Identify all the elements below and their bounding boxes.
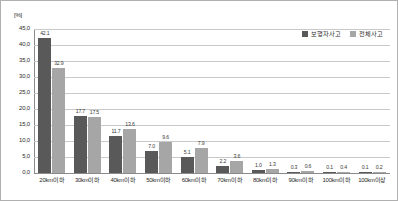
bar[interactable]: 11.7 [109, 136, 122, 173]
bar-slot: 2.2 [216, 29, 229, 173]
bar-value-label: 0.1 [326, 164, 333, 170]
bar[interactable]: 2.2 [216, 166, 229, 173]
bar[interactable]: 0.3 [287, 172, 300, 173]
bar-slot: 0.3 [287, 29, 300, 173]
legend-swatch-icon-series-1 [302, 31, 308, 37]
x-axis-tick-label: 20km이하 [34, 175, 70, 184]
bar-slot: 1.3 [266, 29, 279, 173]
gridline [34, 173, 390, 174]
bar[interactable]: 1.3 [266, 169, 279, 173]
y-axis-tick-label: 40,0 [4, 41, 30, 47]
bar-value-label: 7.0 [148, 143, 155, 149]
legend-item-series-2: 전체사고 [350, 29, 383, 38]
bar-slot: 32.9 [52, 29, 65, 173]
bar[interactable]: 7.0 [145, 151, 158, 173]
bar[interactable]: 42.1 [38, 38, 51, 173]
x-axis-tick-label: 30km이하 [70, 175, 106, 184]
bar[interactable]: 7.9 [195, 148, 208, 173]
bar-slot: 1.0 [252, 29, 265, 173]
bar-value-label: 1.0 [255, 162, 262, 168]
bar-value-label: 2.2 [219, 158, 226, 164]
bar-group: 0.10.4 [319, 29, 355, 173]
legend-label-series-2: 전체사고 [359, 29, 383, 38]
x-axis-tick-label: 60km이하 [176, 175, 212, 184]
y-axis-tick-label: 25,0 [4, 89, 30, 95]
bar-value-label: 42.1 [40, 30, 49, 36]
bar-value-label: 17.7 [76, 108, 85, 114]
bar-value-label: 7.9 [198, 140, 205, 146]
bar-value-label: 0.6 [305, 163, 312, 169]
y-axis-tick-label: 15,0 [4, 121, 30, 127]
bar-slot: 9.6 [159, 29, 172, 173]
bar-slot: 0.1 [323, 29, 336, 173]
bar-value-label: 11.7 [112, 128, 121, 134]
bar[interactable]: 0.1 [359, 172, 372, 173]
bar[interactable]: 0.4 [337, 172, 350, 173]
bar-group: 5.17.9 [176, 29, 212, 173]
bar-group: 2.23.6 [212, 29, 248, 173]
bar[interactable]: 32.9 [52, 68, 65, 173]
bar[interactable]: 17.5 [88, 117, 101, 173]
plot-area: 42.132.917.717.511.713.67.09.65.17.92.23… [34, 29, 390, 173]
x-axis-tick-label: 50km이하 [141, 175, 177, 184]
y-axis-tick-label: 0,0 [4, 169, 30, 175]
bar-value-label: 17.5 [90, 109, 99, 115]
bar-slot: 13.6 [123, 29, 136, 173]
x-axis-tick-label: 90km이하 [283, 175, 319, 184]
bar-slot: 0.4 [337, 29, 350, 173]
bar-chart: [%] 45,040,035,030,025,020,015,010,05,00… [0, 0, 398, 201]
bar-group: 0.10.2 [354, 29, 390, 173]
bar-value-label: 32.9 [54, 60, 63, 66]
x-axis-tick-label: 80km이하 [248, 175, 284, 184]
bar-slot: 17.7 [74, 29, 87, 173]
x-axis-tick-label: 40km이하 [105, 175, 141, 184]
bar-slot: 5.1 [181, 29, 194, 173]
x-axis-tick-label: 100km이상 [354, 175, 390, 184]
y-axis-tick-label: 45,0 [4, 25, 30, 31]
bar-value-label: 1.3 [269, 161, 276, 167]
bar[interactable]: 1.0 [252, 170, 265, 173]
bar[interactable]: 17.7 [74, 116, 87, 173]
bar-slot: 3.6 [230, 29, 243, 173]
legend-swatch-icon-series-2 [350, 31, 356, 37]
bar[interactable]: 9.6 [159, 142, 172, 173]
bar-slot: 11.7 [109, 29, 122, 173]
bar-slot: 7.9 [195, 29, 208, 173]
y-axis-tick-label: 35,0 [4, 57, 30, 63]
bar-value-label: 0.4 [340, 164, 347, 170]
bar-slot: 0.6 [301, 29, 314, 173]
bar-group: 42.132.9 [34, 29, 70, 173]
x-axis-tick-label: 100km이하 [319, 175, 355, 184]
x-axis-labels: 20km이하30km이하40km이하50km이하60km이하70km이하80km… [34, 175, 390, 184]
y-axis-unit-label: [%] [14, 12, 22, 18]
bar[interactable]: 3.6 [230, 161, 243, 173]
bar-group: 7.09.6 [141, 29, 177, 173]
y-axis-tick-label: 5,0 [4, 153, 30, 159]
y-axis-tick-label: 10,0 [4, 137, 30, 143]
bar-value-label: 3.6 [233, 153, 240, 159]
bar-value-label: 0.2 [376, 164, 383, 170]
bar-value-label: 0.3 [291, 164, 298, 170]
bar[interactable]: 0.1 [323, 172, 336, 173]
bar-group: 1.01.3 [248, 29, 284, 173]
bar-slot: 0.2 [373, 29, 386, 173]
bar-value-label: 5.1 [184, 149, 191, 155]
legend-item-series-1: 보행자사고 [302, 29, 341, 38]
bar-value-label: 0.1 [362, 164, 369, 170]
y-axis-tick-label: 20,0 [4, 105, 30, 111]
bar-value-label: 9.6 [162, 134, 169, 140]
bar[interactable]: 13.6 [123, 129, 136, 173]
bar-groups: 42.132.917.717.511.713.67.09.65.17.92.23… [34, 29, 390, 173]
bar[interactable]: 5.1 [181, 157, 194, 173]
y-axis-tick-label: 30,0 [4, 73, 30, 79]
bar-slot: 17.5 [88, 29, 101, 173]
bar-group: 17.717.5 [70, 29, 106, 173]
bar-value-label: 13.6 [125, 121, 134, 127]
bar-slot: 0.1 [359, 29, 372, 173]
chart-legend: 보행자사고 전체사고 [302, 29, 383, 38]
x-axis-tick-label: 70km이하 [212, 175, 248, 184]
bar[interactable]: 0.6 [301, 171, 314, 173]
bar-group: 0.30.6 [283, 29, 319, 173]
bar[interactable]: 0.2 [373, 172, 386, 173]
bar-group: 11.713.6 [105, 29, 141, 173]
